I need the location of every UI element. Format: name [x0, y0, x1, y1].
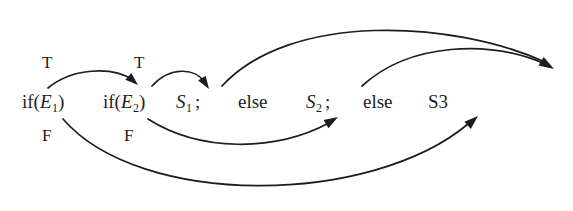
expression-var-2: E	[121, 91, 133, 112]
semicolon-s2: ;	[322, 91, 330, 112]
branch-label-true-2: T	[134, 54, 144, 71]
statement-token-if-e2: if(E2)	[103, 92, 145, 114]
edge-s1-to-end	[222, 30, 545, 86]
expression-var-1: E	[40, 91, 52, 112]
statement-token-s2: S2;	[306, 92, 330, 114]
statement-token-s3: S3	[428, 92, 448, 111]
edge-e2-false-to-s2	[148, 119, 329, 144]
if-paren-close-1: )	[58, 91, 64, 112]
else-keyword-1: else	[238, 92, 268, 111]
if-keyword-2: if(	[103, 91, 121, 112]
branch-label-false-1: F	[42, 127, 51, 144]
branch-label-true-1: T	[42, 54, 52, 71]
else-keyword-2: else	[363, 92, 393, 111]
if-paren-close-2: )	[139, 91, 145, 112]
arrowhead-e1-false-to-s3	[464, 112, 481, 129]
statement-token-s1: S1;	[176, 92, 200, 114]
arrowhead-e1-true-to-e2	[125, 73, 141, 88]
statement-var-s1: S	[176, 91, 186, 112]
edge-e1-true-to-e2	[48, 71, 133, 88]
edge-e2-true-to-s1	[152, 71, 204, 86]
arrow-layer	[0, 0, 573, 211]
if-keyword-1: if(	[22, 91, 40, 112]
arrowhead-e2-false-to-s2	[324, 113, 341, 128]
semicolon-s1: ;	[192, 91, 200, 112]
statement-token-if-e1: if(E1)	[22, 92, 64, 114]
control-flow-figure: if(E1) if(E2) S1; else S2; else S3 T T F…	[0, 0, 573, 211]
statement-var-s2: S	[306, 91, 316, 112]
edge-s2-to-end	[362, 49, 545, 86]
branch-label-false-2: F	[124, 127, 133, 144]
